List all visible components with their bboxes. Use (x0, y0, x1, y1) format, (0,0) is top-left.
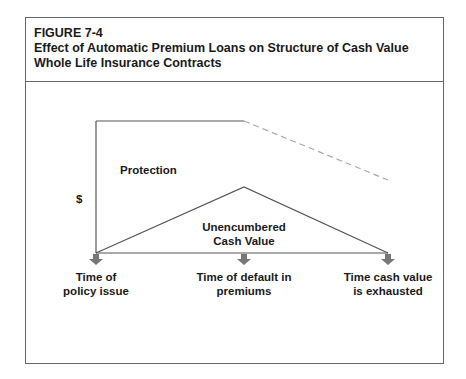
timeline-label-policy-issue: Time of policy issue (46, 270, 146, 298)
timeline-label-line2: premiums (184, 284, 304, 298)
timeline-label-exhausted: Time cash value is exhausted (328, 270, 448, 298)
diagram-graphic (0, 0, 466, 379)
timeline-label-line2: policy issue (46, 284, 146, 298)
cash-value-label-line1: Unencumbered (184, 220, 304, 234)
timeline-label-line1: Time of default in (184, 270, 304, 284)
timeline-label-line1: Time of (46, 270, 146, 284)
protection-label: Protection (120, 163, 177, 177)
timeline-label-line1: Time cash value (328, 270, 448, 284)
arrow-down-icon (237, 254, 251, 265)
arrow-down-icon (381, 254, 395, 265)
timeline-label-default: Time of default in premiums (184, 270, 304, 298)
y-axis-label: $ (76, 192, 82, 206)
arrow-down-icon (89, 254, 103, 265)
protection-dashed-decline (244, 121, 388, 180)
cash-value-label-line2: Cash Value (184, 234, 304, 248)
timeline-label-line2: is exhausted (328, 284, 448, 298)
cash-value-label: Unencumbered Cash Value (184, 220, 304, 248)
